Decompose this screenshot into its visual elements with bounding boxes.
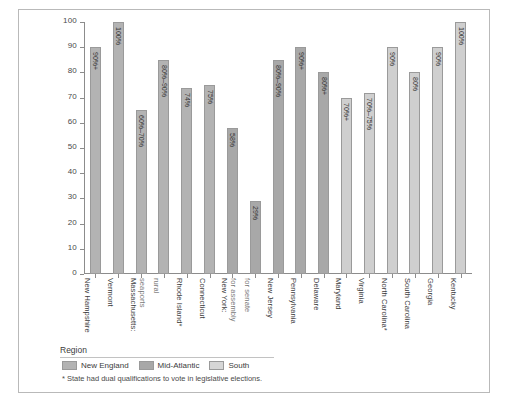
x-label-slot: Vermont: [107, 276, 130, 342]
y-axis-tick: 30: [0, 198, 84, 199]
bar[interactable]: 29%: [250, 201, 261, 274]
y-tick-label: 0: [72, 268, 77, 277]
x-label-slot: Connecticut: [198, 276, 221, 342]
bar-slot: 80%–90%: [158, 22, 169, 274]
chart-figure: 0102030405060708090100 Percentage 90%+10…: [0, 0, 509, 404]
bar-value-label: 75%: [206, 90, 213, 104]
x-label-slot: New Jersey: [267, 276, 290, 342]
x-axis-sublabel: for assembly: [229, 278, 238, 322]
bar-slot: 29%: [250, 22, 261, 274]
bar-value-label: 60%–70%: [138, 115, 145, 147]
bar-slot: 100%: [113, 22, 124, 274]
x-label-slot: Georgia: [426, 276, 449, 342]
bar-slot: 80%: [409, 22, 420, 274]
bar-value-label: 58%: [229, 133, 236, 147]
bar-slot: 100%: [455, 22, 466, 274]
x-label-slot: Virginia: [358, 276, 381, 342]
x-axis-label: Rhode Island*: [175, 278, 184, 326]
bar-value-label: 100%: [115, 27, 122, 45]
y-tick-label: 100: [63, 16, 77, 25]
y-axis-title: Percentage: [26, 0, 40, 22]
y-axis-tick: 40: [0, 173, 84, 174]
legend-label: New England: [81, 361, 129, 370]
bar[interactable]: 58%: [227, 128, 238, 274]
legend-swatch: [209, 361, 224, 370]
y-tick-label: 20: [68, 218, 77, 227]
x-label-slot: rural: [152, 276, 175, 342]
legend-swatch: [139, 361, 154, 370]
legend-label: Mid-Atlantic: [158, 361, 200, 370]
y-tick-label: 80: [68, 66, 77, 75]
bar-value-label: 90%+: [297, 52, 304, 70]
bar-value-label: 100%: [457, 27, 464, 45]
x-axis-label: Georgia: [426, 278, 435, 305]
x-axis-label: Connecticut: [198, 278, 207, 319]
y-axis-tick: 80: [0, 72, 84, 73]
bar[interactable]: 90%: [432, 47, 443, 274]
bar-slot: 70%+: [341, 22, 352, 274]
bar-value-label: 70%–75%: [366, 98, 373, 130]
bar[interactable]: 100%: [455, 22, 466, 274]
x-axis-label: North Carolina*: [380, 278, 389, 331]
y-axis-tick: 0: [0, 274, 84, 275]
bar-value-label: 74%: [183, 93, 190, 107]
legend-footnote: * State had dual qualifications to vote …: [62, 374, 262, 383]
bar[interactable]: 75%: [204, 85, 215, 274]
x-label-slot: Delaware: [312, 276, 335, 342]
y-tick-label: 10: [68, 243, 77, 252]
bar-value-label: 90%: [434, 52, 441, 66]
x-axis-sublabel: rural: [152, 278, 161, 294]
x-label-slot: New York:for assembly: [221, 276, 244, 342]
y-tick-label: 90: [68, 41, 77, 50]
legend-swatch: [62, 361, 77, 370]
bar-value-label: 80%+: [320, 77, 327, 95]
x-label-slot: for senate: [244, 276, 267, 342]
y-tick-label: 30: [68, 192, 77, 201]
legend-item[interactable]: South: [209, 361, 249, 370]
bar[interactable]: 74%: [181, 88, 192, 274]
legend-item[interactable]: New England: [62, 361, 129, 370]
y-axis-tick: 20: [0, 224, 84, 225]
bar[interactable]: 60%–70%: [136, 110, 147, 274]
legend-item[interactable]: Mid-Atlantic: [139, 361, 200, 370]
bar-slot: 90%+: [295, 22, 306, 274]
y-axis-tick: 70: [0, 98, 84, 99]
bar-slot: 80%+: [318, 22, 329, 274]
legend-divider: [60, 357, 274, 358]
bar[interactable]: 80%–90%: [158, 60, 169, 274]
x-axis-label: Vermont: [106, 278, 115, 307]
x-axis-label: Massachusetts:: [129, 278, 138, 332]
bar[interactable]: 100%: [113, 22, 124, 274]
x-axis-label: Delaware: [312, 278, 321, 310]
y-axis-tick: 50: [0, 148, 84, 149]
bar-slot: 90%+: [90, 22, 101, 274]
bar[interactable]: 90%+: [90, 47, 101, 274]
x-label-slot: South Carolina: [404, 276, 427, 342]
bar-slot: 90%: [432, 22, 443, 274]
bar-value-label: 80%: [411, 77, 418, 91]
y-tick-label: 60: [68, 117, 77, 126]
x-axis-sublabel: for senate: [243, 278, 252, 312]
legend-items: New EnglandMid-AtlanticSouth: [62, 361, 249, 370]
bar-slot: 80%–90%: [273, 22, 284, 274]
bar[interactable]: 70%–75%: [364, 93, 375, 274]
bar[interactable]: 80%+: [318, 72, 329, 274]
y-axis-tick: 90: [0, 47, 84, 48]
y-axis-tick: 100: [0, 22, 84, 23]
y-axis-tick: 60: [0, 123, 84, 124]
x-label-slot: New Hampshire: [84, 276, 107, 342]
x-axis-labels: New HampshireVermontMassachusetts:seapor…: [84, 276, 472, 342]
bar-value-label: 80%–90%: [275, 65, 282, 97]
y-tick-label: 40: [68, 167, 77, 176]
bar[interactable]: 80%–90%: [273, 60, 284, 274]
legend-title: Region: [60, 345, 87, 355]
bar[interactable]: 80%: [409, 72, 420, 274]
bar-slot: 60%–70%: [136, 22, 147, 274]
y-tick-label: 70: [68, 92, 77, 101]
bar[interactable]: 90%+: [295, 47, 306, 274]
bar[interactable]: 70%+: [341, 98, 352, 274]
x-label-slot: Massachusetts:seaports: [130, 276, 153, 342]
y-axis: 0102030405060708090100: [0, 22, 84, 274]
bar-value-label: 80%–90%: [160, 65, 167, 97]
bar[interactable]: 90%: [387, 47, 398, 274]
